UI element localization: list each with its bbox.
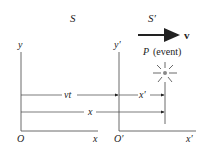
starburst-icon — [153, 62, 177, 82]
frame-s-prime-label: S′ — [148, 12, 157, 24]
s-y-axis-label: y — [17, 39, 23, 50]
s-origin-label: O — [17, 133, 24, 144]
event-p-label: P — [142, 46, 149, 57]
x-distance-label: x — [87, 106, 93, 117]
s-prime-y-axis-label: y′ — [113, 39, 121, 50]
x-prime-distance-label: x′ — [138, 89, 146, 100]
s-prime-origin-label: O′ — [114, 133, 124, 144]
s-prime-x-axis-label: x′ — [185, 133, 193, 144]
frame-s-label: S — [70, 12, 76, 24]
velocity-label: v — [184, 29, 190, 41]
event-text-label: (event) — [153, 46, 181, 58]
s-x-axis-label: x — [92, 133, 98, 144]
galilean-transformation-diagram: S S′ v y O x y′ O′ x′ P (event) vt x′ x — [0, 0, 204, 151]
vt-label: vt — [64, 89, 71, 100]
